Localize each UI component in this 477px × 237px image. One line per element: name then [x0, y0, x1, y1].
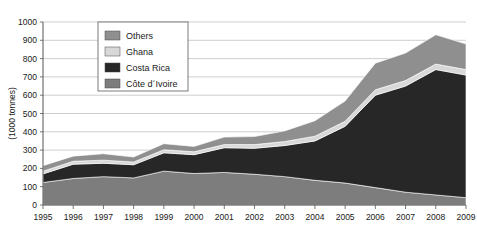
y-tick-label: 900: [23, 35, 37, 45]
x-tick-label: 2005: [336, 212, 355, 222]
legend-label: Others: [126, 31, 154, 41]
y-tick-label: 700: [23, 72, 37, 82]
y-tick-label: 200: [23, 163, 37, 173]
x-tick-label: 2006: [366, 212, 385, 222]
legend-label: Costa Rica: [126, 63, 170, 73]
legend-swatch-ghana: [105, 47, 120, 56]
legend-swatch-c-te-d-ivoire: [105, 79, 120, 88]
legend-swatch-costa-rica: [105, 63, 120, 72]
x-tick-label: 2000: [185, 212, 204, 222]
y-axis-title: (1000 tonnes): [7, 87, 17, 140]
legend: OthersGhanaCosta RicaCôte d´Ivoire: [98, 22, 188, 91]
y-tick-label: 100: [23, 182, 37, 192]
x-tick-label: 1998: [124, 212, 143, 222]
x-tick-label: 2004: [305, 212, 324, 222]
x-tick-label: 1996: [64, 212, 83, 222]
x-tick-label: 2007: [396, 212, 415, 222]
x-tick-label: 1997: [94, 212, 113, 222]
x-tick-label: 1999: [154, 212, 173, 222]
y-tick-label: 300: [23, 145, 37, 155]
y-tick-label: 1000: [18, 17, 37, 27]
x-tick-label: 2001: [215, 212, 234, 222]
stacked-area-chart: 0100200300400500600700800900100019951996…: [0, 0, 477, 237]
x-tick-label: 2008: [426, 212, 445, 222]
chart-canvas: 0100200300400500600700800900100019951996…: [0, 0, 477, 237]
y-tick-label: 600: [23, 90, 37, 100]
x-tick-label: 1995: [34, 212, 53, 222]
legend-label: Ghana: [126, 47, 153, 57]
x-tick-label: 2002: [245, 212, 264, 222]
y-tick-label: 400: [23, 127, 37, 137]
x-tick-label: 2003: [275, 212, 294, 222]
x-tick-label: 2009: [457, 212, 476, 222]
x-axis-ticks: [43, 205, 466, 209]
y-tick-label: 800: [23, 54, 37, 64]
legend-swatch-others: [105, 31, 120, 40]
y-tick-label: 0: [32, 200, 37, 210]
legend-label: Côte d´Ivoire: [126, 79, 178, 89]
y-tick-label: 500: [23, 109, 37, 119]
